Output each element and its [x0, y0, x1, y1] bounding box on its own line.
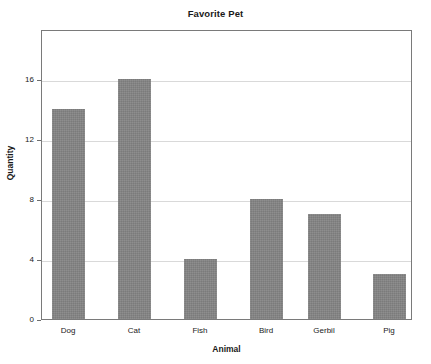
y-tick-mark-0 — [37, 320, 41, 321]
bar-dog[interactable] — [52, 109, 85, 319]
x-tick-label-bird: Bird — [240, 326, 292, 335]
bar-pig[interactable] — [373, 274, 406, 319]
x-tick-label-fish: Fish — [174, 326, 226, 335]
bar-gerbil[interactable] — [308, 214, 341, 319]
bars-layer — [42, 31, 411, 319]
plot-area — [41, 30, 412, 320]
x-tick-label-pig: Pig — [363, 326, 415, 335]
chart-title: Favorite Pet — [0, 8, 431, 19]
bar-fish[interactable] — [184, 259, 217, 319]
x-axis-tick-labels: Dog Cat Fish Bird Gerbil Pig — [41, 326, 412, 340]
bar-cat[interactable] — [118, 79, 151, 319]
x-tick-label-dog: Dog — [42, 326, 94, 335]
x-axis-title: Animal — [41, 344, 412, 354]
plot-inner — [42, 31, 411, 319]
y-axis-tick-marks — [10, 30, 41, 320]
bar-bird[interactable] — [250, 199, 283, 319]
x-tick-label-cat: Cat — [108, 326, 160, 335]
bar-chart-figure: Favorite Pet Quantity 0 4 8 12 16 — [0, 0, 431, 364]
x-tick-label-gerbil: Gerbil — [298, 326, 350, 335]
